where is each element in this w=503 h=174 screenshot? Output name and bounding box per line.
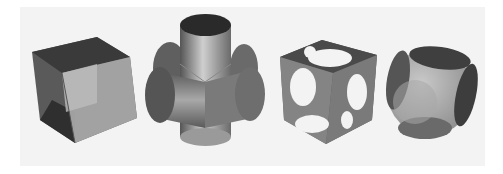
- cube-intersect-sphere-shape: [382, 43, 482, 139]
- csg-figure: [0, 0, 503, 174]
- cube-minus-sphere-shape: [280, 40, 377, 144]
- cube-shape: [32, 37, 137, 143]
- three-cylinders-shape: [145, 14, 265, 146]
